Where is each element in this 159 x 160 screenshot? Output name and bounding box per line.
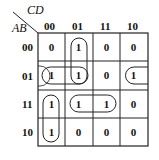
row-label: 10 [22,127,33,138]
kmap-cell: 0 [120,33,147,61]
col-label: 01 [72,21,83,32]
kmap-cell: 1 [120,61,147,89]
kmap-cell: 1 [38,61,65,89]
row-label: 11 [22,99,32,110]
row-label: 01 [22,71,33,82]
col-label: 11 [100,21,110,32]
kmap-cell: 0 [65,118,92,146]
col-variable-label: CD [27,4,44,16]
kmap-cell: 1 [93,90,120,118]
kmap-cell: 0 [120,118,147,146]
kmap-cell: 0 [93,61,120,89]
kmap-cell: 0 [120,90,147,118]
row-variable-label: AB [12,22,27,34]
kmap-cell: 1 [65,33,92,61]
col-label: 10 [127,21,138,32]
kmap-cell: 0 [93,33,120,61]
kmap-cell: 1 [38,118,65,146]
kmap-cell: 1 [65,61,92,89]
kmap-cell: 1 [65,90,92,118]
kmap-cell: 0 [38,33,65,61]
col-label: 00 [44,21,55,32]
kmap-cell: 1 [38,90,65,118]
kmap-cell: 0 [93,118,120,146]
row-label: 00 [22,42,33,53]
